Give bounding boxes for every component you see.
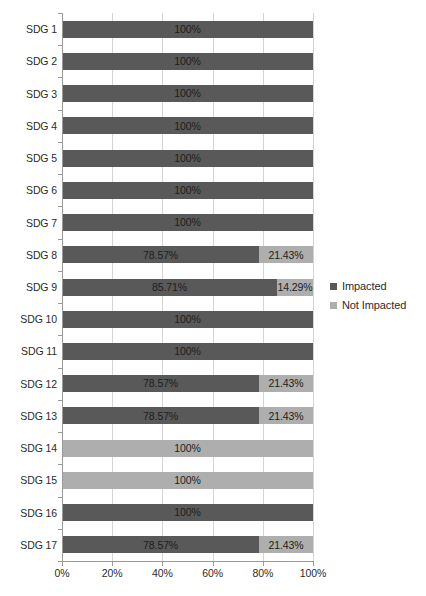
y-axis-category-labels: SDG 1SDG 2SDG 3SDG 4SDG 5SDG 6SDG 7SDG 8… [0,13,57,561]
legend-swatch-icon [330,283,337,290]
legend-swatch-icon [330,302,337,309]
category-label-sdg-11: SDG 11 [3,346,57,357]
category-label-sdg-14: SDG 14 [3,443,57,454]
bar-segment[interactable]: 100% [62,182,313,199]
bar-value-label: 78.57% [143,540,178,551]
bar-value-label: 100% [174,475,200,486]
bar-segment[interactable]: 100% [62,21,313,38]
bar-row[interactable]: 85.71%14.29% [62,279,313,296]
bar-value-label: 21.43% [269,250,304,261]
bar-value-label: 85.71% [152,282,187,293]
x-axis-line [62,561,314,562]
bar-value-label: 14.29% [278,282,313,293]
bar-segment[interactable]: 100% [62,472,313,489]
bar-value-label: 78.57% [143,411,178,422]
x-tick-mark [313,561,314,566]
bar-row[interactable]: 100% [62,214,313,231]
x-tick-label: 80% [238,568,288,579]
bar-row[interactable]: 100% [62,117,313,134]
bar-value-label: 100% [174,346,200,357]
bar-row[interactable]: 100% [62,343,313,360]
bar-segment[interactable]: 78.57% [62,407,259,424]
x-tick-label: 60% [188,568,238,579]
bar-segment[interactable]: 100% [62,311,313,328]
bar-row[interactable]: 100% [62,182,313,199]
x-tick-label: 40% [137,568,187,579]
bar-row[interactable]: 100% [62,311,313,328]
category-label-sdg-10: SDG 10 [3,314,57,325]
category-label-sdg-13: SDG 13 [3,411,57,422]
bar-value-label: 100% [174,153,200,164]
category-label-sdg-7: SDG 7 [3,218,57,229]
bar-row[interactable]: 78.57%21.43% [62,246,313,263]
legend-item[interactable]: Not Impacted [330,300,424,311]
bar-row[interactable]: 78.57%21.43% [62,375,313,392]
bar-row[interactable]: 78.57%21.43% [62,536,313,553]
legend-item[interactable]: Impacted [330,281,424,292]
gridline-100pct [313,13,314,561]
y-axis-line [62,13,63,561]
x-tick-mark [263,561,264,566]
bar-value-label: 100% [174,56,200,67]
bar-value-label: 21.43% [269,540,304,551]
plot-area: 100%100%100%100%100%100%100%78.57%21.43%… [62,13,313,561]
bar-value-label: 78.57% [143,378,178,389]
bar-segment[interactable]: 100% [62,214,313,231]
category-label-sdg-15: SDG 15 [3,475,57,486]
bar-segment[interactable]: 78.57% [62,375,259,392]
category-label-sdg-12: SDG 12 [3,379,57,390]
x-tick-label: 20% [87,568,137,579]
category-label-sdg-9: SDG 9 [3,282,57,293]
bar-value-label: 100% [174,507,200,518]
bar-row[interactable]: 100% [62,472,313,489]
bar-value-label: 100% [174,121,200,132]
bar-segment[interactable]: 21.43% [259,246,313,263]
legend-label: Not Impacted [342,300,406,311]
bar-row[interactable]: 100% [62,21,313,38]
bar-segment[interactable]: 78.57% [62,536,259,553]
bar-segment[interactable]: 14.29% [277,279,313,296]
bar-value-label: 100% [174,24,200,35]
category-label-sdg-1: SDG 1 [3,24,57,35]
bar-segment[interactable]: 100% [62,53,313,70]
x-tick-label: 0% [37,568,87,579]
bar-row[interactable]: 78.57%21.43% [62,407,313,424]
bar-segment[interactable]: 85.71% [62,279,277,296]
bar-segment[interactable]: 100% [62,440,313,457]
bar-value-label: 100% [174,443,200,454]
bar-row[interactable]: 100% [62,440,313,457]
bar-segment[interactable]: 100% [62,343,313,360]
category-label-sdg-6: SDG 6 [3,185,57,196]
bar-row[interactable]: 100% [62,85,313,102]
bar-segment[interactable]: 21.43% [259,407,313,424]
category-label-sdg-3: SDG 3 [3,89,57,100]
stacked-bar-chart: 100%100%100%100%100%100%100%78.57%21.43%… [0,0,426,596]
x-tick-mark [213,561,214,566]
chart-legend: ImpactedNot Impacted [330,281,424,319]
bar-row[interactable]: 100% [62,150,313,167]
bar-value-label: 100% [174,88,200,99]
x-tick-mark [112,561,113,566]
x-tick-label: 100% [288,568,338,579]
category-label-sdg-8: SDG 8 [3,250,57,261]
category-label-sdg-4: SDG 4 [3,121,57,132]
bar-value-label: 100% [174,314,200,325]
bar-segment[interactable]: 21.43% [259,375,313,392]
bar-value-label: 78.57% [143,250,178,261]
category-label-sdg-5: SDG 5 [3,153,57,164]
x-tick-mark [162,561,163,566]
category-label-sdg-2: SDG 2 [3,56,57,67]
bar-segment[interactable]: 100% [62,150,313,167]
bar-segment[interactable]: 100% [62,504,313,521]
bar-segment[interactable]: 100% [62,85,313,102]
bar-segment[interactable]: 100% [62,117,313,134]
bar-row[interactable]: 100% [62,53,313,70]
bar-segment[interactable]: 78.57% [62,246,259,263]
category-label-sdg-16: SDG 16 [3,508,57,519]
bar-value-label: 100% [174,217,200,228]
bar-value-label: 21.43% [269,411,304,422]
x-tick-mark [62,561,63,566]
bar-segment[interactable]: 21.43% [259,536,313,553]
legend-label: Impacted [342,281,386,292]
bar-row[interactable]: 100% [62,504,313,521]
